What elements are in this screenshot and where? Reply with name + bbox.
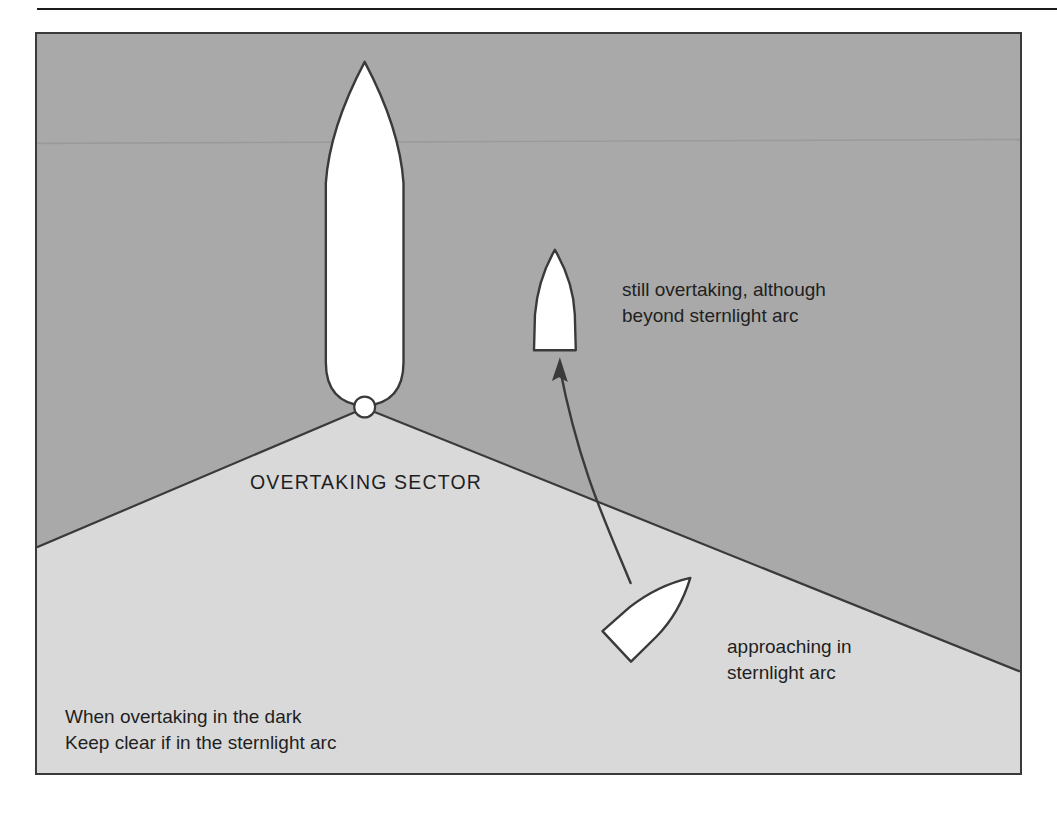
annotation-beyond-arc: still overtaking, although beyond sternl… <box>622 277 826 329</box>
annotation-in-arc: approaching in sternlight arc <box>727 634 852 686</box>
sternlight-lamp <box>354 397 375 418</box>
top-rule <box>37 8 1057 10</box>
figure-frame: OVERTAKING SECTOR still overtaking, alth… <box>35 32 1022 775</box>
figure-page: OVERTAKING SECTOR still overtaking, alth… <box>0 0 1057 829</box>
sector-label: OVERTAKING SECTOR <box>250 469 482 496</box>
figure-caption: When overtaking in the dark Keep clear i… <box>65 704 336 756</box>
diagram-canvas <box>37 34 1020 773</box>
